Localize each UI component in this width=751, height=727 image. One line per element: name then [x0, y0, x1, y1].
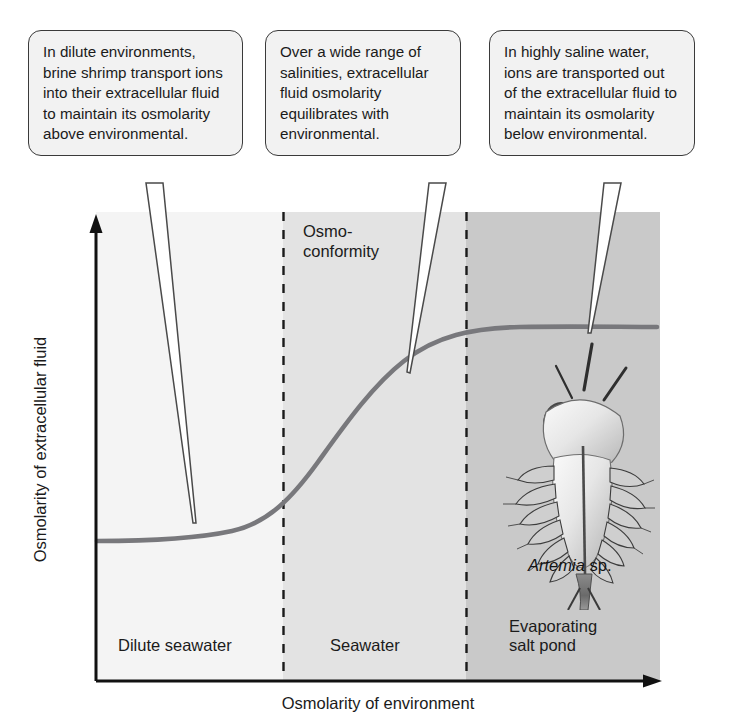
x-axis-arrowhead [643, 675, 662, 688]
x-axis-title: Osmolarity of environment [96, 694, 660, 713]
osmoregulation-figure: In dilute environments, brine shrimp tra… [0, 0, 751, 727]
callout-saline-environment: In highly saline water, ions are transpo… [489, 30, 695, 156]
callout-1-pointer [146, 183, 196, 523]
callout-osmoconformity: Over a wide range of salinities, extrace… [265, 30, 461, 156]
zone-label-evaporating-salt-pond: Evaporating salt pond [509, 617, 597, 656]
zone-label-dilute-seawater: Dilute seawater [118, 636, 232, 655]
zone-label-seawater: Seawater [330, 636, 400, 655]
annotation-osmoconformity: Osmo- conformity [303, 222, 379, 262]
callout-3-pointer [588, 183, 621, 333]
artemia-genus-name: Artemia [528, 556, 585, 574]
artemia-species-abbrev: sp. [589, 556, 611, 574]
callout-dilute-environment: In dilute environments, brine shrimp tra… [28, 30, 243, 156]
y-axis-arrowhead [90, 214, 103, 233]
artemia-species-caption: Artemia sp. [528, 556, 611, 575]
y-axis-title: Osmolarity of extracellular fluid [31, 290, 50, 610]
